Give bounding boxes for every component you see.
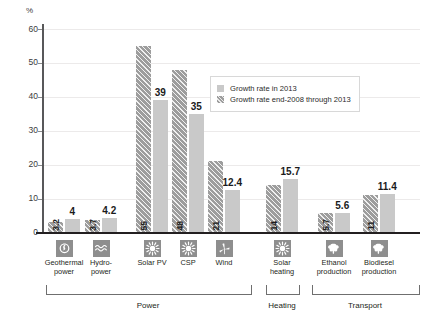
bar-value-label: 14 [266,221,281,230]
bar-group-wind: 2112.4 [207,0,241,232]
legend-item-growth-2013: Growth rate in 2013 [217,84,351,93]
bar-group-csp: 4835 [171,0,205,232]
category-label: Biodiesel production [353,259,405,276]
sun-icon [274,240,291,257]
category-label: Hydro- power [75,259,127,276]
legend-label: Growth rate in 2013 [230,84,297,93]
bar-value-label: 3.2 [48,219,63,231]
legend-swatch-dark [217,96,224,103]
category-wind: Wind [198,240,250,268]
legend-label: Growth rate end-2008 through 2013 [230,95,351,104]
bar-solar-heating-growth-2013: 15.7 [283,179,298,232]
bracket-label-power: Power [46,301,250,310]
sun-icon [180,240,197,257]
bar-value-label: 11.4 [373,181,402,192]
bracket-heating [266,285,300,295]
bracket-transport [312,285,420,295]
wind-turbine-icon [216,240,233,257]
growth-rate-bar-chart: % 6050403020100 3.243.74.2553948352112.4… [0,0,425,316]
leaf-icon [326,240,343,257]
bracket-label-heating: Heating [266,301,298,310]
category-biodiesel: Biodiesel production [353,240,405,276]
bar-value-label: 4.2 [95,205,124,216]
bar-biodiesel-growth-2013: 11.4 [380,194,395,233]
bar-ethanol-growth-2008-2013: 5.7 [318,213,333,232]
bar-hydro-growth-2008-2013: 3.7 [85,220,100,233]
category-hydro: Hydro- power [75,240,127,276]
category-label: Solar heating [256,259,308,276]
legend-swatch-light [217,85,224,92]
bar-solar-heating-growth-2008-2013: 14 [266,185,281,232]
y-tick-label: 10 [16,194,38,202]
bar-group-solar-heating: 1415.7 [265,0,299,232]
bar-value-label: 3.7 [85,219,100,231]
y-axis-unit-label: % [26,6,33,15]
bar-value-label: 11 [363,221,378,230]
bar-csp-growth-2013: 35 [189,114,204,233]
bar-wind-growth-2008-2013: 21 [208,161,223,232]
y-tick-label: 60 [16,25,38,33]
bar-geothermal-growth-2013: 4 [65,219,80,233]
bar-value-label: 55 [136,221,151,230]
y-tick-label: 40 [16,92,38,100]
bar-ethanol-growth-2013: 5.6 [335,213,350,232]
y-tick-label: 30 [16,126,38,134]
sun-icon [144,240,161,257]
y-tick-label: 0 [16,228,38,236]
bar-value-label: 15.7 [276,166,305,177]
bar-group-solar-pv: 5539 [135,0,169,232]
bar-group-ethanol: 5.75.6 [317,0,351,232]
y-tick-label: 50 [16,58,38,66]
bar-geothermal-growth-2008-2013: 3.2 [48,222,63,233]
category-solar-heating: Solar heating [256,240,308,276]
bracket-label-transport: Transport [312,301,418,310]
bar-biodiesel-growth-2008-2013: 11 [363,195,378,232]
bar-value-label: 12.4 [218,177,247,188]
legend: Growth rate in 2013 Growth rate end-2008… [210,76,360,112]
legend-item-growth-2008-2013: Growth rate end-2008 through 2013 [217,95,351,104]
bar-csp-growth-2008-2013: 48 [172,70,187,233]
y-axis-line [42,24,44,233]
bar-value-label: 5.7 [318,219,333,231]
category-label: Wind [198,259,250,268]
bar-value-label: 48 [172,221,187,230]
leaf-icon [371,240,388,257]
bar-value-label: 21 [208,221,223,230]
bar-group-geothermal: 3.24 [47,0,81,232]
bar-solar-pv-growth-2008-2013: 55 [136,46,151,232]
bar-group-biodiesel: 1111.4 [362,0,396,232]
bar-wind-growth-2013: 12.4 [225,190,240,232]
bar-hydro-growth-2013: 4.2 [102,218,117,232]
bar-group-hydro: 3.74.2 [84,0,118,232]
x-axis-line [36,232,420,234]
bracket-power [46,285,252,295]
y-tick-label: 20 [16,160,38,168]
bar-value-label: 4 [58,206,87,217]
wave-icon [93,240,110,257]
geothermal-icon [56,240,73,257]
bar-value-label: 5.6 [328,200,357,211]
bar-solar-pv-growth-2013: 39 [153,100,168,232]
